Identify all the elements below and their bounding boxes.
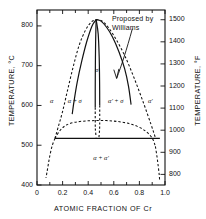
annotation-arrow-head bbox=[114, 69, 119, 79]
x-axis-tick-label: 0 bbox=[25, 189, 49, 196]
phase-boundary-curve bbox=[96, 20, 131, 105]
phase-diagram-figure: TEMPERATURE, °C TEMPERATURE, °F ATOMIC F… bbox=[0, 0, 206, 219]
y-axis-left-tick-label: 600 bbox=[7, 101, 33, 108]
x-axis-tick-label: 0.8 bbox=[127, 189, 151, 196]
y-axis-right-tick-label: 1200 bbox=[169, 82, 197, 89]
x-axis-title: ATOMIC FRACTION OF Cr bbox=[0, 204, 206, 213]
phase-region-label-sigma: σ bbox=[95, 66, 98, 73]
y-axis-right-tick-label: 800 bbox=[169, 170, 197, 177]
phase-region-label-alphap-sigma: α' + σ bbox=[108, 97, 123, 104]
y-axis-right-tick-label: 900 bbox=[169, 148, 197, 155]
annotation-line-1: Proposed by bbox=[112, 14, 154, 23]
y-axis-left-tick-label: 500 bbox=[7, 141, 33, 148]
annotation-line-2: Williams bbox=[112, 23, 154, 32]
phase-boundary-curve bbox=[96, 20, 100, 106]
y-axis-left-tick-label: 700 bbox=[7, 61, 33, 68]
x-axis-tick-label: 1.0 bbox=[153, 189, 177, 196]
phase-boundary-curve bbox=[155, 146, 159, 180]
x-axis-tick-label: 0.4 bbox=[76, 189, 100, 196]
phase-region-label-alpha: α bbox=[50, 97, 53, 104]
y-axis-right-tick-label: 1000 bbox=[169, 126, 197, 133]
y-axis-right-tick-label: 1100 bbox=[169, 104, 197, 111]
x-axis-tick-label: 0.2 bbox=[51, 189, 75, 196]
x-axis-tick-label: 0.6 bbox=[102, 189, 126, 196]
phase-boundary-curve bbox=[99, 105, 100, 137]
phase-region-label-alpha-prime: α' bbox=[148, 97, 153, 104]
phase-boundary-curve bbox=[46, 138, 55, 177]
y-axis-left-tick-label: 800 bbox=[7, 21, 33, 28]
y-axis-right-tick-label: 1500 bbox=[169, 15, 197, 22]
phase-region-label-alpha-sigma: α + σ bbox=[68, 97, 82, 104]
phase-boundary-curve bbox=[96, 20, 155, 138]
phase-region-label-alpha-alphap: α + α' bbox=[93, 154, 109, 161]
phase-boundary-curve bbox=[55, 120, 155, 146]
y-axis-right-tick-label: 1300 bbox=[169, 59, 197, 66]
y-axis-left-tick-label: 400 bbox=[7, 181, 33, 188]
phase-boundary-curve bbox=[95, 20, 96, 108]
y-axis-left-title: TEMPERATURE, °C bbox=[7, 46, 16, 136]
y-axis-right-tick-label: 1400 bbox=[169, 37, 197, 44]
phase-boundary-curve bbox=[95, 107, 96, 137]
proposed-by-williams-annotation: Proposed by Williams bbox=[112, 14, 154, 32]
